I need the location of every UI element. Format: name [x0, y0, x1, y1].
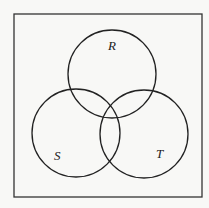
set-t-label: T: [156, 146, 164, 161]
set-s-label: S: [54, 148, 61, 163]
set-s-circle: [32, 89, 120, 177]
set-t-circle: [100, 90, 188, 178]
venn-diagram: R S T: [0, 0, 209, 208]
set-r-label: R: [107, 38, 116, 53]
